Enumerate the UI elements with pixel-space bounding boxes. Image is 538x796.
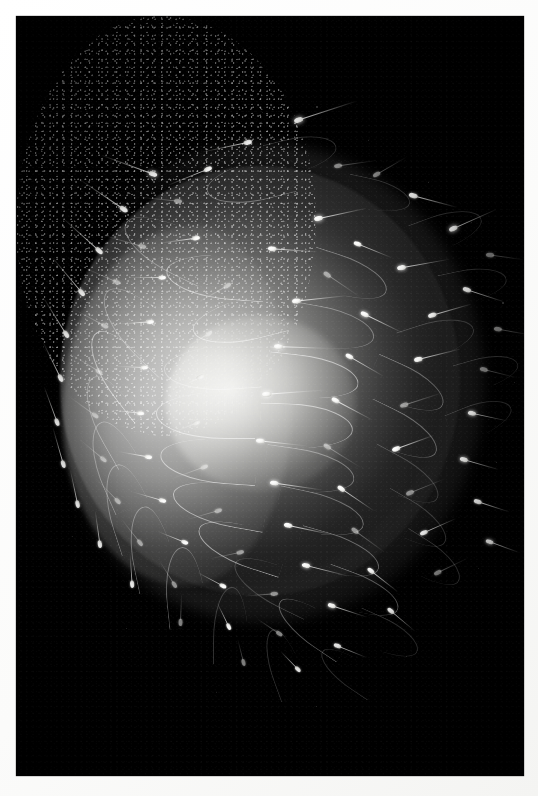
caption-layer bbox=[0, 0, 538, 796]
screenshot-root bbox=[0, 0, 538, 796]
